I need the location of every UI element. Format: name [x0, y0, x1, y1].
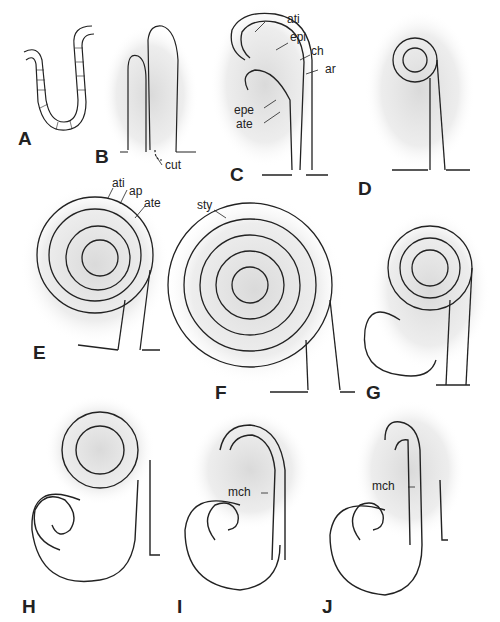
panel-label-h: H [22, 596, 36, 618]
panel-a-drawing [24, 26, 94, 130]
annotation-c-epi: epi [290, 30, 306, 44]
annotation-e-ap: ap [129, 184, 142, 198]
annotation-c-epe: epe [234, 103, 254, 117]
panel-j-drawing [330, 400, 465, 595]
annotation-c-ati: ati [287, 12, 300, 26]
panel-h-drawing [32, 395, 160, 581]
annotation-c-ar: ar [325, 62, 336, 76]
panel-label-d: D [358, 178, 372, 200]
annotation-j-mch: mch [372, 479, 395, 493]
annotation-cut: cut [165, 158, 181, 172]
panel-c-drawing [210, 3, 328, 175]
panel-label-i: I [177, 596, 182, 618]
panel-i-drawing [185, 410, 310, 590]
panel-f-drawing [165, 195, 355, 392]
annotation-e-ati: ati [112, 176, 125, 190]
diagram-canvas [0, 0, 500, 622]
panel-label-f: F [215, 382, 227, 404]
annotation-i-mch: mch [228, 485, 251, 499]
annotation-e-ate: ate [144, 196, 161, 210]
panel-d-drawing [365, 10, 475, 170]
annotation-c-ch: ch [311, 44, 324, 58]
panel-label-b: B [95, 146, 109, 168]
panel-label-j: J [322, 596, 333, 618]
annotation-f-sty: sty [197, 198, 212, 212]
panel-label-g: G [366, 382, 381, 404]
panel-label-e: E [33, 342, 46, 364]
panel-g-drawing [364, 210, 490, 385]
panel-label-c: C [230, 164, 244, 186]
panel-b-drawing [102, 25, 198, 165]
panel-label-a: A [18, 128, 32, 150]
annotation-c-ate: ate [236, 117, 253, 131]
